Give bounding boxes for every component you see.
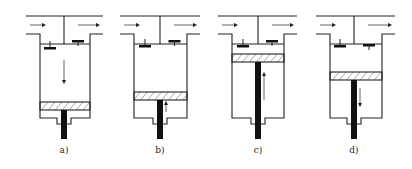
intake-valve-icon: [334, 45, 346, 48]
connecting-rod: [351, 80, 357, 139]
piston: [232, 54, 284, 62]
cylinder-right-wall: [261, 34, 297, 124]
engine-diagram: [0, 0, 412, 169]
intake-valve-icon: [44, 47, 56, 50]
cylinder-left-wall: [120, 34, 157, 124]
panel-label: a): [60, 145, 69, 155]
intake-valve-icon: [237, 45, 249, 48]
piston: [40, 102, 90, 110]
panel-label: b): [155, 145, 164, 155]
cylinder-left-wall: [218, 34, 255, 124]
panel-label: d): [349, 145, 358, 155]
connecting-rod: [61, 110, 67, 139]
connecting-rod: [157, 100, 163, 139]
connecting-rod: [255, 62, 261, 139]
piston: [134, 92, 187, 100]
panel-label: c): [254, 145, 263, 155]
intake-valve-icon: [139, 45, 151, 48]
piston: [330, 72, 382, 80]
cylinder-right-wall: [163, 34, 200, 124]
